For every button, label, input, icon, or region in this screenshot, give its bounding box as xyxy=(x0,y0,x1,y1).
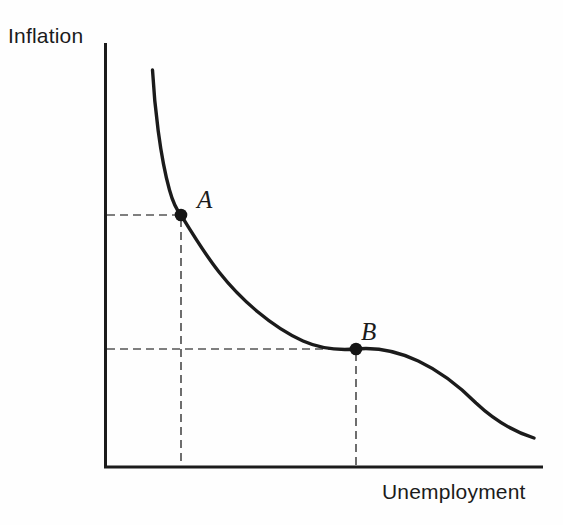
data-point-label-b: B xyxy=(361,318,376,346)
phillips-curve-figure: Inflation Unemployment A B xyxy=(0,0,563,525)
data-point-a-marker[interactable] xyxy=(175,209,188,222)
x-axis-label: Unemployment xyxy=(382,480,526,504)
y-axis-label: Inflation xyxy=(8,24,83,48)
phillips-curve-stroke xyxy=(153,70,535,438)
data-point-label-a: A xyxy=(197,186,212,214)
curve xyxy=(153,70,535,438)
chart-plot-area xyxy=(0,0,563,525)
